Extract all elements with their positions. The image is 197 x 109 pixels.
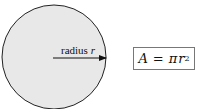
formula-equals: = <box>153 51 164 66</box>
formula-pi: π <box>169 51 178 66</box>
formula-exponent: 2 <box>184 54 189 63</box>
circle <box>2 5 106 109</box>
radius-label: radius r <box>61 44 96 56</box>
formula-lhs: A <box>138 51 147 66</box>
area-formula-box: A = π r2 <box>133 47 195 70</box>
